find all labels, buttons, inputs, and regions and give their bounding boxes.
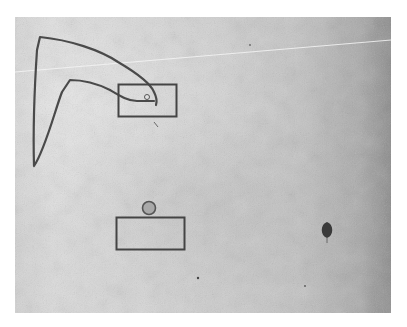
scene-canvas[interactable] bbox=[0, 0, 407, 327]
game-stage[interactable] bbox=[0, 0, 407, 327]
speck bbox=[304, 285, 306, 287]
speck bbox=[197, 277, 199, 279]
small-ring-icon bbox=[145, 95, 150, 100]
paper-grain-texture bbox=[15, 17, 391, 313]
gray-ball[interactable] bbox=[143, 202, 156, 215]
speck bbox=[249, 44, 251, 46]
